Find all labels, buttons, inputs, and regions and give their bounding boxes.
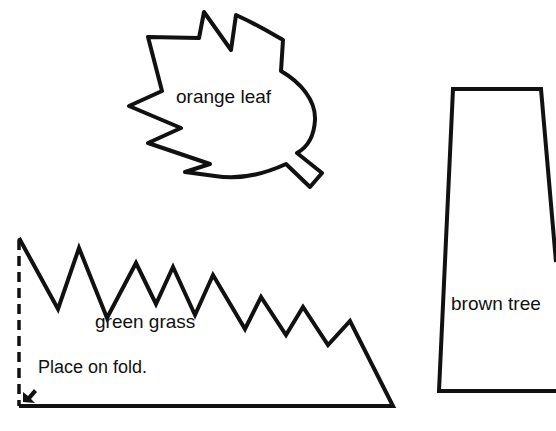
grass-outline — [19, 238, 393, 406]
grass-label: green grass — [95, 311, 195, 333]
tree-outline — [439, 89, 556, 391]
fold-instruction: Place on fold. — [38, 357, 147, 378]
fold-arrow-icon — [23, 389, 37, 403]
leaf-label: orange leaf — [176, 86, 271, 108]
tree-label: brown tree — [451, 293, 541, 315]
